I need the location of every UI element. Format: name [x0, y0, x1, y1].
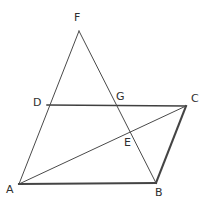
- vertex-label-b: B: [155, 187, 163, 198]
- vertex-label-a: A: [6, 184, 14, 195]
- vertex-label-e: E: [124, 137, 131, 148]
- segment-fb-through-g-e: [79, 31, 156, 183]
- geometry-canvas: [0, 0, 209, 211]
- geometry-figure: F D G C E A B: [0, 0, 209, 211]
- vertex-label-g: G: [116, 91, 125, 102]
- segment-af-through-d: [19, 31, 79, 184]
- segment-ab: [19, 183, 156, 184]
- vertex-label-d: D: [33, 97, 41, 108]
- vertex-label-f: F: [74, 12, 80, 23]
- vertex-label-c: C: [191, 93, 199, 104]
